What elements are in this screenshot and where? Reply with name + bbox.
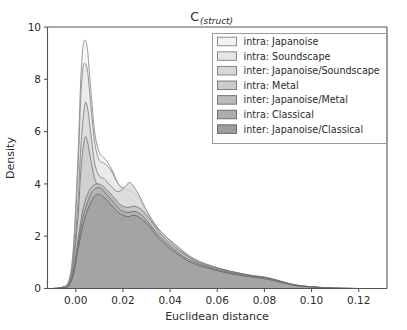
y-tick-label-1: 2 <box>34 230 41 242</box>
legend-label-0: intra: Japanoise <box>244 36 319 47</box>
legend-label-5: intra: Classical <box>244 109 314 120</box>
y-tick-label-2: 4 <box>34 178 41 190</box>
legend-label-1: intra: Soundscape <box>244 51 331 62</box>
title-main-text: C <box>190 9 199 24</box>
legend-label-2: inter: Japanoise/Soundscape <box>244 65 380 76</box>
legend-label-4: inter: Japanoise/Metal <box>244 94 348 105</box>
chart-canvas: C (struct) 0.000.020.040.060.080.100.12 … <box>0 0 407 330</box>
x-tick-label-1: 0.02 <box>111 294 134 306</box>
x-axis-label: Euclidean distance <box>165 310 269 323</box>
x-tick-label-4: 0.08 <box>253 294 276 306</box>
x-tick-label-2: 0.04 <box>158 294 182 306</box>
legend-swatch-3 <box>218 81 237 90</box>
legend-swatch-4 <box>218 96 237 105</box>
title-subscript-text: (struct) <box>200 16 233 26</box>
legend: intra: Japanoiseintra: Soundscapeinter: … <box>213 34 387 144</box>
y-tick-label-4: 8 <box>34 73 41 85</box>
legend-label-3: intra: Metal <box>244 80 299 91</box>
y-axis-label: Density <box>4 137 17 179</box>
x-tick-label-0: 0.00 <box>64 294 87 306</box>
legend-swatch-1 <box>218 52 237 61</box>
density-plot-figure: C (struct) 0.000.020.040.060.080.100.12 … <box>0 0 407 330</box>
legend-swatch-2 <box>218 66 237 75</box>
legend-label-6: inter: Japanoise/Classical <box>244 124 364 135</box>
x-tick-label-6: 0.12 <box>347 294 370 306</box>
legend-swatch-6 <box>218 125 237 134</box>
figure-root: C (struct) 0.000.020.040.060.080.100.12 … <box>0 0 407 330</box>
y-tick-label-0: 0 <box>34 282 41 294</box>
x-tick-label-3: 0.06 <box>206 294 230 306</box>
x-tick-label-5: 0.10 <box>300 294 323 306</box>
legend-swatch-5 <box>218 110 237 119</box>
y-tick-label-5: 10 <box>28 21 41 33</box>
legend-swatch-0 <box>218 37 237 46</box>
y-tick-label-3: 6 <box>34 125 41 137</box>
